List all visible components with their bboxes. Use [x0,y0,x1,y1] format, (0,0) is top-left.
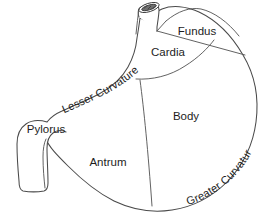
stomach-illustration: Fundus Cardia Body Antrum Pylorus Lesser… [0,0,271,224]
label-fundus: Fundus [178,25,217,37]
label-body: Body [173,110,199,122]
label-antrum: Antrum [89,156,126,168]
stomach-anatomy-diagram: Fundus Cardia Body Antrum Pylorus Lesser… [0,0,271,224]
label-cardia: Cardia [151,46,185,58]
label-pylorus: Pylorus [27,123,66,135]
